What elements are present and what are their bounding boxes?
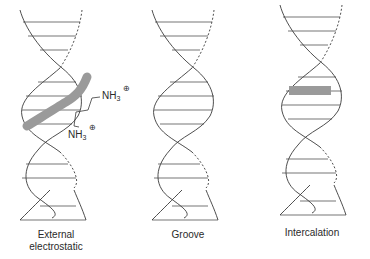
- label-groove: Groove: [148, 229, 228, 241]
- intercalator: [289, 86, 331, 95]
- polyamine-chain: [74, 97, 100, 127]
- dna-binding-diagram: [0, 0, 370, 259]
- helix-intercalation: [280, 5, 346, 215]
- positive-charge-icon: ⊕: [123, 84, 130, 93]
- groove-binder: [27, 77, 87, 126]
- nh3-top: NH3⊕: [102, 90, 120, 102]
- positive-charge-icon: ⊕: [89, 123, 96, 132]
- helix-groove: [152, 10, 218, 220]
- nh3-bottom: NH3⊕: [68, 129, 86, 141]
- label-intercalation: Intercalation: [272, 227, 352, 239]
- label-external: External electrostatic: [16, 229, 96, 253]
